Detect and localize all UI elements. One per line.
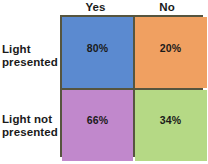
matrix-cell-presented-yes: 80% (62, 17, 133, 88)
matrix-cell-value: 80% (87, 42, 109, 54)
matrix-grid: 80% 20% 66% 34% (60, 15, 203, 157)
matrix-cell-presented-no: 20% (135, 17, 207, 88)
row-label-line-1: Light not (2, 113, 58, 126)
row-label-light-presented: Light presented (2, 43, 58, 68)
row-label-line-2: presented (2, 56, 58, 69)
matrix-cell-not-presented-yes: 66% (62, 90, 133, 161)
matrix-cell-value: 34% (160, 114, 182, 126)
column-header-no: No (131, 0, 203, 15)
row-label-light-not-presented: Light not presented (2, 113, 58, 138)
contingency-matrix-figure: Yes No Light presented Light not present… (0, 0, 208, 164)
column-header-yes: Yes (60, 0, 131, 15)
matrix-cell-value: 66% (87, 114, 109, 126)
matrix-cell-value: 20% (160, 42, 182, 54)
row-label-line-2: presented (2, 126, 58, 139)
row-label-line-1: Light (2, 43, 58, 56)
matrix-cell-not-presented-no: 34% (135, 90, 207, 161)
